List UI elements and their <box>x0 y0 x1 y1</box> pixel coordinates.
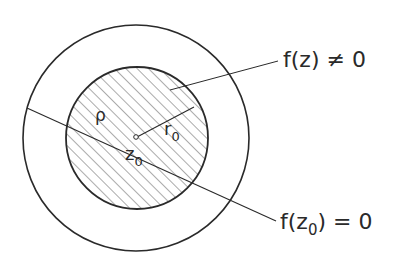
z0-center-point <box>134 135 139 140</box>
nonzero-leader-line <box>170 61 278 90</box>
rho-label: ρ <box>95 105 106 125</box>
zero-label: f(z0) = 0 <box>280 209 372 239</box>
nonzero-label: f(z) ≠ 0 <box>283 47 366 72</box>
diagram-canvas: ρ r0 z0 f(z) ≠ 0 f(z0) = 0 <box>0 0 404 264</box>
